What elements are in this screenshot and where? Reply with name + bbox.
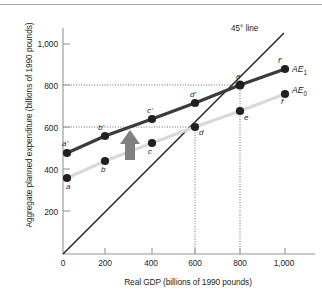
series-label-ae1: AE1 [292, 64, 307, 76]
data-point-a-prime [63, 149, 71, 157]
point-label-c: c [148, 147, 152, 156]
point-label-a-prime: a' [62, 139, 68, 148]
data-point-e [236, 107, 244, 115]
chart-svg [0, 0, 322, 302]
data-point-b-prime [101, 132, 109, 140]
point-label-a: a [66, 182, 70, 191]
series-label-ae0-text: AE [292, 85, 303, 95]
point-label-e-prime: e' [236, 72, 242, 81]
series-label-ae0-sub: 0 [303, 90, 307, 97]
data-point-c-prime [148, 115, 156, 123]
point-label-f-prime: f' [278, 56, 282, 65]
fortyfive-line-label: 45° line [231, 24, 258, 33]
series-label-ae1-sub: 1 [303, 69, 307, 76]
point-label-d-prime: d' [190, 90, 196, 99]
data-point-b [101, 157, 109, 165]
data-point-d [191, 123, 199, 131]
data-point-c [148, 139, 156, 147]
data-point-f-prime [281, 65, 289, 73]
axis-ticks [63, 44, 285, 254]
series-line-45-degree [63, 33, 284, 254]
chart-plot-area: Aggregate planned expenditure (billions … [0, 0, 322, 302]
data-point-d-prime [191, 99, 199, 107]
point-label-e: e [244, 113, 248, 122]
point-label-b-prime: b' [98, 123, 104, 132]
series-label-ae1-text: AE [292, 64, 303, 74]
data-point-e-prime [235, 80, 244, 89]
data-point-a [63, 174, 71, 182]
point-label-f: f [281, 97, 283, 106]
series-label-ae0: AE0 [292, 85, 307, 97]
series-line-ae0 [67, 94, 285, 178]
point-label-d: d [199, 128, 203, 137]
point-label-c-prime: c' [147, 106, 153, 115]
point-label-b: b [101, 165, 105, 174]
